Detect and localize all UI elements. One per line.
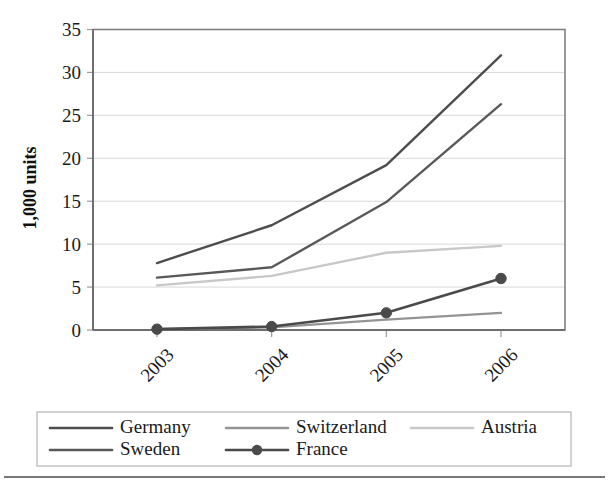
y-tick-label-25: 25 xyxy=(62,105,81,126)
legend-marker-france xyxy=(252,445,262,455)
legend-label-sweden: Sweden xyxy=(120,438,181,459)
series-marker-france xyxy=(152,324,162,334)
y-axis-title: 1,000 units xyxy=(20,146,40,229)
y-tick-label-0: 0 xyxy=(72,320,82,341)
legend-label-germany: Germany xyxy=(120,416,191,437)
y-tick-label-35: 35 xyxy=(62,19,81,40)
series-marker-france xyxy=(266,321,276,331)
legend-label-austria: Austria xyxy=(481,416,538,437)
y-tick-label-15: 15 xyxy=(62,191,81,212)
line-chart: 05101520253035 2003200420052006 1,000 un… xyxy=(0,0,609,486)
y-tick-label-30: 30 xyxy=(62,62,81,83)
legend-label-switzerland: Switzerland xyxy=(296,416,387,437)
legend-label-france: France xyxy=(296,438,348,459)
chart-legend: GermanySwitzerlandAustriaSwedenFrance xyxy=(37,412,571,466)
chart-figure: 05101520253035 2003200420052006 1,000 un… xyxy=(0,0,609,486)
y-tick-label-20: 20 xyxy=(62,148,81,169)
series-marker-france xyxy=(381,308,391,318)
series-marker-france xyxy=(496,273,506,283)
y-tick-label-5: 5 xyxy=(72,277,82,298)
y-tick-label-10: 10 xyxy=(62,234,81,255)
